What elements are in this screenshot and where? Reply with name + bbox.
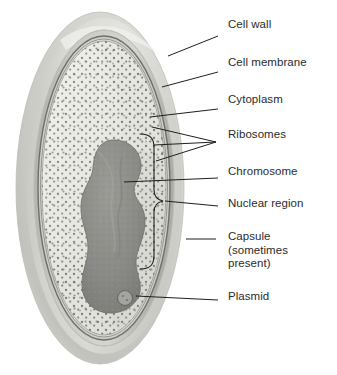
label-cytoplasm: Cytoplasm xyxy=(228,93,283,107)
label-cell-membrane: Cell membrane xyxy=(228,56,307,70)
leader-cell-membrane xyxy=(162,72,218,87)
label-chromosome: Chromosome xyxy=(228,165,298,179)
bacterial-cell-figure: Cell wall Cell membrane Cytoplasm Riboso… xyxy=(0,0,337,375)
label-cell-wall: Cell wall xyxy=(228,18,271,32)
leader-cell-wall xyxy=(168,36,218,56)
label-nuclear-region: Nuclear region xyxy=(228,197,304,211)
plasmid-shape xyxy=(118,291,132,305)
label-capsule: Capsule (sometimes present) xyxy=(228,230,288,271)
label-plasmid: Plasmid xyxy=(228,290,269,304)
label-ribosomes: Ribosomes xyxy=(228,128,286,142)
